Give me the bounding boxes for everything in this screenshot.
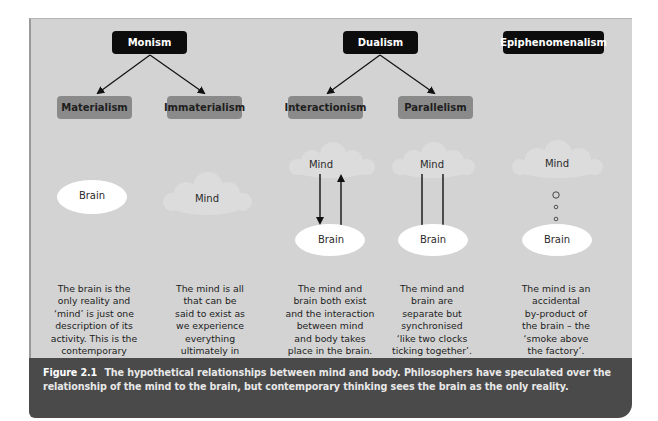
mind-label-immaterialism: Mind xyxy=(195,193,219,204)
mind-label-parallelism: Mind xyxy=(420,159,444,170)
caption-text: The hypothetical relationships between m… xyxy=(43,367,611,392)
description-immaterialism: The mind is all that can be said to exis… xyxy=(155,283,265,370)
smoke-bubbles xyxy=(553,192,559,221)
description-epiphenomenalism: The mind is an accidental by-product of … xyxy=(501,283,611,357)
brain-label-interactionism: Brain xyxy=(318,234,344,245)
description-interactionism: The mind and brain both exist and the in… xyxy=(275,283,385,357)
figure-caption: Figure 2.1 The hypothetical relationship… xyxy=(29,358,632,418)
node-materialism: Materialism xyxy=(57,96,132,119)
brain-label-materialism: Brain xyxy=(79,190,105,201)
brain-label-epiphenomenalism: Brain xyxy=(544,234,570,245)
parallel-lines xyxy=(422,174,443,225)
node-parallelism: Parallelism xyxy=(398,96,473,119)
mind-label-interactionism: Mind xyxy=(309,159,333,170)
interaction-arrows xyxy=(320,174,341,225)
monism-arrows xyxy=(98,55,204,93)
node-immaterialism: Immaterialism xyxy=(167,96,242,119)
description-materialism: The brain is the only reality and ‘mind’… xyxy=(39,283,149,370)
node-epiphenomenalism: Epiphenomenalism xyxy=(503,31,604,54)
node-monism: Monism xyxy=(112,31,187,54)
node-dualism: Dualism xyxy=(343,31,418,54)
brain-label-parallelism: Brain xyxy=(420,234,446,245)
dualism-arrows xyxy=(328,55,434,93)
description-parallelism: The mind and brain are separate but sync… xyxy=(377,283,487,357)
figure-number: Figure 2.1 xyxy=(43,367,97,378)
node-interactionism: Interactionism xyxy=(288,96,363,119)
mind-label-epiphenomenalism: Mind xyxy=(545,158,569,169)
